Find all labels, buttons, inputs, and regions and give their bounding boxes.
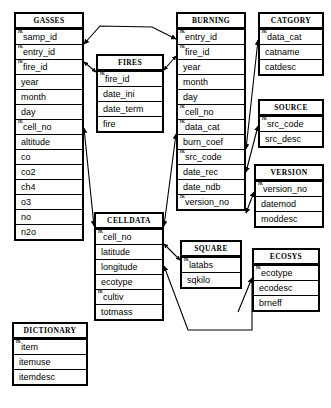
attribute-row[interactable]: catdesc (260, 60, 322, 74)
key-tag: PK (262, 117, 267, 121)
attribute-row[interactable]: PK cell_no (96, 230, 162, 245)
attribute-row[interactable]: FK entry_id (16, 45, 82, 60)
attribute-row[interactable]: day (16, 105, 82, 120)
attribute-name: catname (265, 47, 300, 57)
entity-dictionary[interactable]: DICTIONARY PK item itemuse itemdesc (12, 322, 88, 386)
attribute-row[interactable]: itemuse (14, 355, 86, 370)
attribute-row[interactable]: burn_coef (178, 135, 244, 150)
attribute-row[interactable]: FK data_cat (178, 120, 244, 135)
attribute-name: ecotype (101, 277, 133, 287)
attribute-row[interactable]: date_ndb (178, 180, 244, 195)
entity-gasses[interactable]: GASSES PK samp_id FK entry_id FK fire_id… (14, 12, 84, 241)
key-tag: PK (262, 30, 267, 34)
entity-burning[interactable]: BURNING PK entry_id FK fire_id year mont… (176, 12, 246, 211)
attribute-name: year (21, 77, 39, 87)
attribute-row[interactable]: sqkilo (182, 273, 240, 287)
key-tag: PK (98, 290, 103, 294)
attribute-row[interactable]: date_ini (98, 87, 162, 102)
attribute-row[interactable]: co (16, 150, 82, 165)
attribute-name: latabs (189, 260, 213, 270)
attribute-row[interactable]: datemod (256, 197, 322, 212)
attribute-name: datemod (261, 199, 296, 209)
entity-fires[interactable]: FIRES PK fire_id date_ini date_term fire (96, 54, 164, 133)
attribute-row[interactable]: PK src_code (260, 117, 322, 132)
entity-title-gasses: GASSES (16, 14, 82, 29)
attribute-row[interactable]: PK item (14, 340, 86, 355)
attribute-name: co2 (21, 167, 36, 177)
attribute-name: co (21, 152, 31, 162)
key-tag: FK (180, 45, 185, 49)
key-tag: PK (180, 30, 185, 34)
attribute-row[interactable]: PK entry_id (178, 30, 244, 45)
attribute-list-dictionary: PK item itemuse itemdesc (14, 339, 86, 384)
er-diagram-canvas: GASSES PK samp_id FK entry_id FK fire_id… (0, 0, 331, 408)
attribute-row[interactable]: month (16, 90, 82, 105)
attribute-name: burn_coef (183, 137, 223, 147)
attribute-row[interactable]: ecotype (96, 275, 162, 290)
attribute-row[interactable]: itemdesc (14, 370, 86, 384)
attribute-row[interactable]: FK fire_id (16, 60, 82, 75)
attribute-row[interactable]: PK cultiv (96, 290, 162, 305)
attribute-row[interactable]: PK data_cat (260, 30, 322, 45)
attribute-row[interactable]: month (178, 75, 244, 90)
key-tag: FK (180, 105, 185, 109)
attribute-row[interactable]: year (178, 60, 244, 75)
key-tag: PK (184, 258, 189, 262)
attribute-name: data_cat (267, 32, 302, 42)
attribute-name: version_no (263, 184, 307, 194)
entity-title-dictionary: DICTIONARY (14, 324, 86, 339)
attribute-row[interactable]: FK cell_no (178, 105, 244, 120)
attribute-name: src_desc (265, 134, 301, 144)
attribute-row[interactable]: latitude (96, 245, 162, 260)
attribute-row[interactable]: src_desc (260, 132, 322, 146)
attribute-row[interactable]: PK samp_id (16, 30, 82, 45)
entity-ecosys[interactable]: ECOSYS PK ecotype ecodesc brneff (252, 248, 320, 312)
attribute-name: cultiv (103, 292, 124, 302)
attribute-row[interactable]: FK src_code (178, 150, 244, 165)
attribute-row[interactable]: date_term (98, 102, 162, 117)
attribute-name: itemdesc (19, 372, 55, 382)
attribute-row[interactable]: altitude (16, 135, 82, 150)
attribute-row[interactable]: PK fire_id (98, 72, 162, 87)
attribute-row[interactable]: longitude (96, 260, 162, 275)
attribute-row[interactable]: moddesc (256, 212, 322, 226)
attribute-row[interactable]: o3 (16, 195, 82, 210)
entity-version[interactable]: VERSION PK version_no datemod moddesc (254, 164, 324, 228)
attribute-row[interactable]: ch4 (16, 180, 82, 195)
attribute-row[interactable]: PK ecotype (254, 266, 318, 281)
attribute-name: entry_id (23, 47, 55, 57)
attribute-name: src_code (267, 119, 304, 129)
entity-title-celldata: CELLDATA (96, 214, 162, 229)
attribute-row[interactable]: brneff (254, 296, 318, 310)
attribute-row[interactable]: fire (98, 117, 162, 131)
attribute-name: samp_id (23, 32, 57, 42)
attribute-row[interactable]: FK fire_id (178, 45, 244, 60)
entity-title-ecosys: ECOSYS (254, 250, 318, 265)
attribute-row[interactable]: no (16, 210, 82, 225)
attribute-name: data_cat (185, 122, 220, 132)
attribute-row[interactable]: PK version_no (256, 182, 322, 197)
entity-source[interactable]: SOURCE PK src_code src_desc (258, 99, 324, 148)
attribute-row[interactable]: year (16, 75, 82, 90)
entity-catgory[interactable]: CATGORY PK data_cat catname catdesc (258, 12, 324, 76)
key-tag: FK (18, 120, 23, 124)
attribute-row[interactable]: totmass (96, 305, 162, 319)
attribute-row[interactable]: date_rec (178, 165, 244, 180)
link-gasses-celldata (84, 128, 94, 226)
entity-title-burning: BURNING (178, 14, 244, 29)
attribute-row[interactable]: n2o (16, 225, 82, 239)
entity-celldata[interactable]: CELLDATA PK cell_no latitude longitude e… (94, 212, 164, 321)
attribute-row[interactable]: ecodesc (254, 281, 318, 296)
entity-square[interactable]: SQUARE PK latabs sqkilo (180, 240, 242, 289)
attribute-name: ch4 (21, 182, 36, 192)
attribute-name: date_term (103, 104, 144, 114)
link-celldata-square (164, 244, 180, 260)
attribute-row[interactable]: FK version_no (178, 195, 244, 209)
attribute-row[interactable]: co2 (16, 165, 82, 180)
attribute-name: cell_no (185, 107, 214, 117)
attribute-row[interactable]: day (178, 90, 244, 105)
attribute-row[interactable]: PK latabs (182, 258, 240, 273)
attribute-row[interactable]: FK cell_no (16, 120, 82, 135)
attribute-name: day (183, 92, 198, 102)
attribute-row[interactable]: catname (260, 45, 322, 60)
